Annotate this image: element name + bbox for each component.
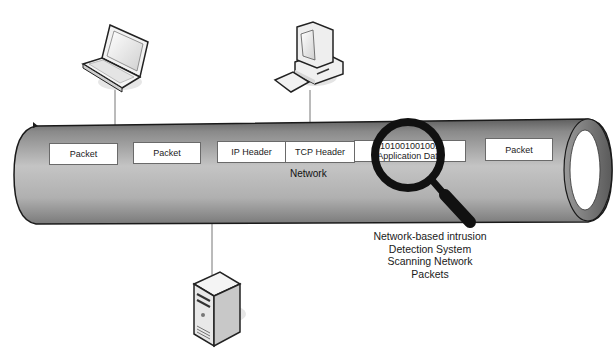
network-label: Network: [290, 168, 327, 179]
ip-header-box: IP Header: [217, 141, 286, 163]
application-data-label: Application Data: [377, 151, 443, 161]
packet-label: Packet: [70, 149, 98, 159]
packet-label: Packet: [505, 145, 533, 155]
caption-line: Detection System: [345, 243, 515, 256]
application-data-box: 101001001001 Application Data: [354, 140, 466, 162]
packet-label: Packet: [153, 148, 181, 158]
desktop-computer-icon: [275, 22, 343, 92]
caption-line: Scanning Network: [345, 255, 515, 268]
binary-data-label: 101001001001: [380, 141, 440, 151]
packet-box: Packet: [49, 143, 118, 165]
packet-box: Packet: [133, 142, 201, 164]
tcp-header-box: TCP Header: [285, 141, 355, 163]
server-tower-icon: [194, 272, 246, 346]
packet-box: Packet: [485, 138, 553, 161]
ip-header-label: IP Header: [231, 147, 271, 157]
caption-line: Network-based intrusion: [345, 230, 515, 243]
caption-line: Packets: [345, 268, 515, 281]
nids-caption: Network-based intrusion Detection System…: [345, 230, 515, 280]
laptop-icon: [83, 25, 148, 92]
tcp-header-label: TCP Header: [295, 147, 345, 157]
